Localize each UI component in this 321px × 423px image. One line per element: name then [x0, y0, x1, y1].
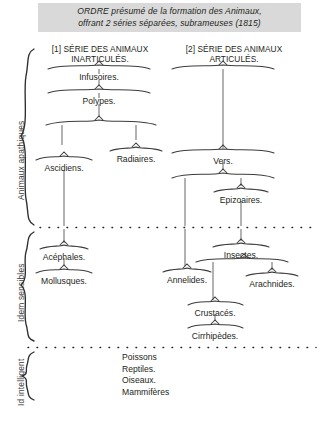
taxon-epizoaires: Epizoaires.	[211, 195, 271, 205]
list-item: Reptiles.	[122, 364, 169, 376]
taxon-insectes: Insectes.	[211, 250, 271, 260]
taxon-polypes: Polypes.	[49, 96, 149, 106]
taxon-arachnides: Arachnides.	[242, 279, 302, 289]
taxon-mollusques: Mollusques.	[32, 276, 96, 286]
taxon-infusoires: Infusoires.	[49, 72, 149, 82]
taxon-ascidiens: Ascidiens.	[34, 163, 94, 173]
list-item: Poissons	[122, 352, 169, 364]
diagram-canvas: ORDRE présumé de la formation des Animau…	[0, 0, 321, 423]
taxon-annelides: Annelides.	[157, 275, 217, 285]
taxon-vers: Vers.	[193, 156, 253, 166]
margin-label-animaux-apathiques: Animaux apathiques	[16, 121, 26, 201]
list-item: Oiseaux.	[122, 375, 169, 387]
margin-label-id-intelligent: Id intelligent	[16, 359, 26, 407]
vertebrate-list: Poissons Reptiles. Oiseaux. Mammifères	[122, 352, 169, 398]
taxon-radiaires: Radiaires.	[106, 154, 166, 164]
taxon-crustaces: Crustacés.	[185, 308, 245, 318]
list-item: Mammifères	[122, 387, 169, 399]
taxon-cirrhipedes: Cirrhipèdes.	[185, 331, 245, 341]
margin-label-idem-sensibles: Idem sensibles	[16, 263, 26, 322]
taxon-acephales: Acéphales.	[34, 252, 94, 262]
